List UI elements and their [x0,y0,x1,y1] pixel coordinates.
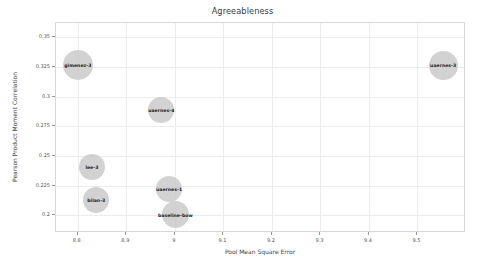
x-tick-label: 8.9 [121,237,129,243]
bubble-point[interactable] [429,51,458,80]
y-tick-label: 0.25 [19,152,50,158]
y-tick-mark [52,96,55,97]
x-tick-mark [416,232,417,235]
x-tick-mark [125,232,126,235]
y-tick-mark [52,185,55,186]
x-tick-label: 9.5 [412,237,420,243]
y-tick-mark [52,125,55,126]
x-tick-label: 9.1 [218,237,226,243]
bubble-point[interactable] [148,97,174,123]
x-tick-mark [319,232,320,235]
x-tick-label: 9 [172,237,175,243]
bubble-point[interactable] [83,187,109,213]
y-gridline [56,156,464,157]
x-axis-label: Pool Mean Square Error [55,248,465,255]
bubble-point[interactable] [79,154,105,180]
y-tick-mark [52,66,55,67]
x-tick-mark [222,232,223,235]
y-gridline [56,215,464,216]
bubble-point[interactable] [156,176,182,202]
y-tick-label: 0.35 [19,33,50,39]
x-tick-label: 9.2 [267,237,275,243]
bubble-point[interactable] [63,50,93,80]
x-tick-mark [77,232,78,235]
y-tick-mark [52,155,55,156]
x-tick-label: 9.4 [364,237,372,243]
bubble-point[interactable] [162,201,189,228]
y-gridline [56,67,464,68]
y-gridline [56,186,464,187]
y-tick-label: 0.225 [19,182,50,188]
chart-title: Agreeableness [0,6,485,16]
y-tick-label: 0.275 [19,122,50,128]
y-gridline [56,126,464,127]
chart-figure: Agreeableness gimenez-3uaernes-3uaernes-… [0,0,485,269]
x-tick-label: 8.8 [73,237,81,243]
y-gridline [56,37,464,38]
y-tick-mark [52,36,55,37]
y-tick-label: 0.2 [19,211,50,217]
x-tick-mark [271,232,272,235]
y-tick-label: 0.3 [19,93,50,99]
x-tick-mark [174,232,175,235]
y-axis-label: Pearson Product Moment Correlation [11,72,18,182]
plot-area: gimenez-3uaernes-3uaernes-4lee-3bilan-3u… [55,22,465,232]
x-tick-label: 9.3 [315,237,323,243]
x-tick-mark [368,232,369,235]
y-gridline [56,97,464,98]
y-tick-label: 0.325 [19,63,50,69]
y-tick-mark [52,214,55,215]
